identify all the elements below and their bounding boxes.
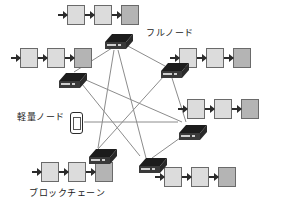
block[interactable] xyxy=(74,48,92,68)
full-node-left[interactable] xyxy=(58,72,88,92)
chain-arrow-icon xyxy=(209,176,218,178)
full-node-bottom-left[interactable] xyxy=(88,148,118,168)
block[interactable] xyxy=(20,48,38,68)
block[interactable] xyxy=(68,162,86,182)
block[interactable] xyxy=(241,99,259,119)
full-node-bottom-right[interactable] xyxy=(138,157,168,177)
block[interactable] xyxy=(218,167,236,187)
chain-arrow-icon xyxy=(32,171,41,173)
chain-arrow-icon xyxy=(58,14,67,16)
label-full-node: フルノード xyxy=(146,29,194,38)
chain-arrow-icon xyxy=(232,108,241,110)
block[interactable] xyxy=(191,167,209,187)
block[interactable] xyxy=(206,48,224,68)
block[interactable] xyxy=(41,162,59,182)
block[interactable] xyxy=(47,48,65,68)
edge-node-right-to-node-bottom-right xyxy=(152,138,180,158)
block[interactable] xyxy=(214,99,232,119)
chain-arrow-icon xyxy=(205,108,214,110)
label-light-node: 軽量ノード xyxy=(17,113,65,122)
blockchain-right xyxy=(178,99,259,119)
chain-arrow-icon xyxy=(86,171,95,173)
chain-arrow-icon xyxy=(182,176,191,178)
lightweight-node-smartphone-icon[interactable] xyxy=(70,112,83,134)
chain-arrow-icon xyxy=(85,14,94,16)
chain-arrow-icon xyxy=(178,108,187,110)
block[interactable] xyxy=(94,5,112,25)
phone-screen xyxy=(73,117,81,130)
chain-arrow-icon xyxy=(38,57,47,59)
blockchain-left xyxy=(11,48,92,68)
edge-node-left-to-node-bottom-right xyxy=(82,84,140,156)
chain-arrow-icon xyxy=(59,171,68,173)
chain-arrow-icon xyxy=(112,14,121,16)
block[interactable] xyxy=(187,99,205,119)
block[interactable] xyxy=(233,48,251,68)
chain-arrow-icon xyxy=(65,57,74,59)
full-node-upper-right[interactable] xyxy=(160,62,190,82)
full-node-right[interactable] xyxy=(178,124,208,144)
network-diagram: フルノード軽量ノードブロックチェーン xyxy=(0,0,281,209)
full-node-top[interactable] xyxy=(104,33,134,53)
chain-arrow-icon xyxy=(170,57,179,59)
chain-arrow-icon xyxy=(224,57,233,59)
blockchain-top xyxy=(58,5,139,25)
block[interactable] xyxy=(67,5,85,25)
block[interactable] xyxy=(121,5,139,25)
chain-arrow-icon xyxy=(11,57,20,59)
chain-arrow-icon xyxy=(197,57,206,59)
edge-node-left-to-node-right xyxy=(86,80,182,122)
label-blockchain: ブロックチェーン xyxy=(29,189,105,198)
